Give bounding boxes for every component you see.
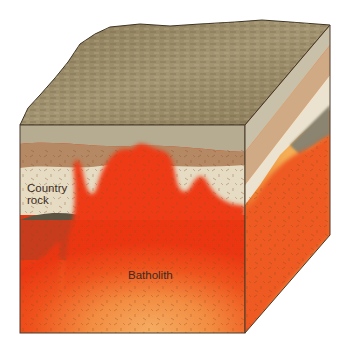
block-diagram-illustration: [0, 0, 347, 354]
country-rock-label-line1: Country: [27, 182, 67, 194]
batholith-label: Batholith: [128, 269, 173, 281]
front-face: [20, 125, 245, 333]
country-rock-label: Country rock: [27, 182, 67, 206]
country-rock-label-line2: rock: [27, 194, 67, 206]
batholith-block-diagram: Country rock Batholith: [0, 0, 347, 354]
